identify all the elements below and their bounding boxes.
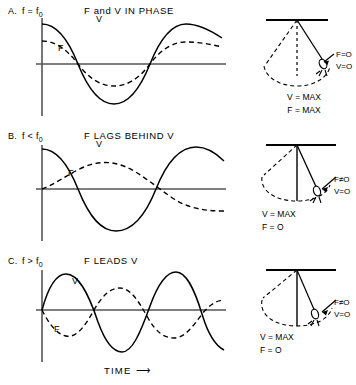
panel-a-v-label: V: [96, 14, 102, 24]
panel-c-title: F LEADS V: [84, 255, 138, 266]
panel-c-caption-f: F = O: [252, 345, 356, 355]
panel-c-note-f: F≠O: [334, 298, 350, 307]
arm-left-dashed: [266, 20, 297, 64]
panel-a-note-v: V=O: [336, 62, 352, 71]
panel-c-pendulum: F≠O V=O V = MAX F = O: [252, 264, 356, 374]
panel-c-v-label: V: [72, 276, 78, 286]
panel-a-condition-text: f = f: [22, 6, 39, 16]
panel-a-caption-f: F = MAX: [252, 105, 356, 115]
panel-b-condition-text: f < f: [22, 131, 39, 141]
pendulum-bob: [310, 185, 322, 203]
pendulum-arm: [297, 145, 318, 191]
force-curve: [42, 288, 224, 338]
pendulum-arm: [297, 270, 316, 314]
pendulum-arm: [297, 20, 324, 62]
panel-c-condition-text: f > f: [22, 256, 39, 266]
panel-c-note-v: V=O: [334, 310, 350, 319]
time-axis-label: TIME⟶: [104, 365, 151, 376]
panel-b-pendulum: F≠O V=O V = MAX F = O: [252, 139, 356, 249]
panel-a-f-label: F: [58, 43, 64, 53]
panel-c-letter: C.: [8, 256, 18, 266]
time-axis-text: TIME: [104, 365, 132, 376]
panel-b-note-v: V=O: [334, 187, 350, 196]
panel-b-v-label: V: [96, 139, 102, 149]
panel-a: A. f = f0 F and V IN PHASE V F F=O V=O: [0, 0, 356, 125]
panel-c-caption-v: V = MAX: [252, 332, 356, 342]
panel-b-caption-f: F = O: [252, 222, 356, 232]
panel-b-caption-v: V = MAX: [252, 209, 356, 219]
panel-a-caption-v: V = MAX: [252, 92, 356, 102]
panel-b-f-label: F: [68, 168, 74, 178]
bob-arrow: [324, 54, 334, 62]
panel-a-pendulum: F=O V=O V = MAX F = MAX: [252, 14, 356, 124]
panel-c-plot: V F: [36, 266, 232, 370]
panel-b: B. f < f0 F LAGS BEHIND V V F F≠O V=O: [0, 125, 356, 250]
panel-a-letter: A.: [8, 6, 17, 16]
panel-c: C. f > f0 F LEADS V V F F≠O V=O V =: [0, 250, 356, 375]
arm-left-dashed: [264, 145, 297, 175]
time-arrow-icon: ⟶: [136, 365, 151, 376]
panel-c-f-label: F: [54, 324, 60, 334]
panel-a-note-f: F=O: [336, 50, 352, 59]
velocity-curve: [42, 272, 224, 352]
panel-a-plot: V F: [36, 16, 232, 120]
panel-b-letter: B.: [8, 131, 17, 141]
arm-left-dashed: [263, 270, 297, 298]
panel-b-note-f: F≠O: [334, 175, 350, 184]
panel-b-plot: V F: [36, 141, 232, 245]
